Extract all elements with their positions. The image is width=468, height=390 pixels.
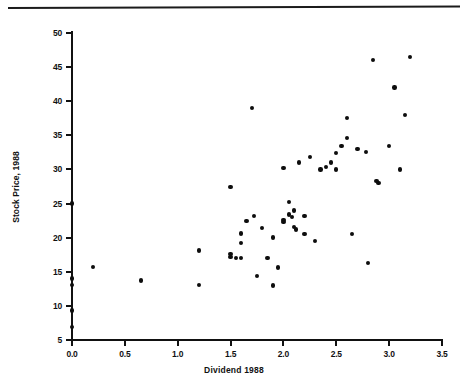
- data-point: [260, 226, 264, 230]
- x-axis-tick: [230, 340, 232, 346]
- x-axis-tick-label: 1.5: [214, 349, 248, 359]
- data-point: [292, 208, 296, 212]
- scatter-plot: 5101520253035404550 0.00.51.01.52.02.53.…: [0, 0, 468, 390]
- data-point: [376, 181, 380, 185]
- x-axis-title: Dividend 1988: [0, 365, 468, 375]
- x-axis-tick: [124, 340, 126, 346]
- data-point: [408, 55, 412, 59]
- y-axis-tick: [66, 168, 72, 170]
- data-point: [281, 220, 285, 224]
- y-axis-tick-label: 10: [36, 301, 62, 311]
- data-point: [239, 241, 243, 245]
- data-point: [318, 167, 322, 171]
- figure-container: 5101520253035404550 0.00.51.01.52.02.53.…: [0, 0, 468, 390]
- data-point: [334, 167, 338, 171]
- data-point: [70, 276, 74, 280]
- data-point: [366, 261, 370, 265]
- data-point: [350, 232, 354, 236]
- data-point: [139, 278, 143, 282]
- y-axis-tick-label: 5: [36, 335, 62, 345]
- data-point: [70, 201, 74, 205]
- data-point: [244, 219, 248, 223]
- data-point: [287, 200, 291, 204]
- data-point: [250, 106, 254, 110]
- y-axis-line: [71, 31, 73, 342]
- x-axis-tick: [335, 340, 337, 346]
- data-point: [271, 235, 275, 239]
- y-axis-tick-label: 30: [36, 164, 62, 174]
- data-point: [70, 325, 74, 329]
- y-axis-tick: [66, 305, 72, 307]
- data-point: [228, 185, 232, 189]
- data-point: [313, 239, 317, 243]
- data-point: [308, 155, 312, 159]
- data-point: [290, 215, 294, 219]
- y-axis-tick-label: 15: [36, 267, 62, 277]
- x-axis-tick: [71, 340, 73, 346]
- data-point: [329, 160, 333, 164]
- x-axis-tick: [388, 340, 390, 346]
- x-axis-tick-label: 3.0: [372, 349, 406, 359]
- y-axis-tick-label: 45: [36, 62, 62, 72]
- y-axis-tick: [66, 100, 72, 102]
- data-point: [355, 147, 359, 151]
- x-axis-tick-label: 0.5: [108, 349, 142, 359]
- data-point: [281, 166, 285, 170]
- x-axis-tick-label: 0.0: [55, 349, 89, 359]
- x-axis-tick-label: 2.5: [319, 349, 353, 359]
- y-axis-tick-label: 40: [36, 96, 62, 106]
- data-point: [91, 265, 95, 269]
- data-point: [252, 214, 256, 218]
- x-axis-tick-label: 1.0: [161, 349, 195, 359]
- data-point: [234, 256, 238, 260]
- y-axis-tick-label: 20: [36, 233, 62, 243]
- data-point: [297, 160, 301, 164]
- y-axis-title: Stock Price, 1988: [11, 127, 21, 247]
- x-axis-tick-label: 3.5: [425, 349, 459, 359]
- data-point: [339, 144, 343, 148]
- y-axis-tick: [66, 66, 72, 68]
- x-axis-tick: [282, 340, 284, 346]
- data-point: [276, 265, 280, 269]
- data-point: [403, 113, 407, 117]
- data-point: [302, 214, 306, 218]
- data-point: [271, 283, 275, 287]
- y-axis-tick: [66, 32, 72, 34]
- data-point: [294, 227, 298, 231]
- data-point: [334, 151, 338, 155]
- data-point: [345, 116, 349, 120]
- data-point: [228, 255, 232, 259]
- data-point: [197, 248, 201, 252]
- data-point: [197, 283, 201, 287]
- data-point: [364, 150, 368, 154]
- data-point: [302, 232, 306, 236]
- x-axis-tick-label: 2.0: [266, 349, 300, 359]
- x-axis-tick: [441, 340, 443, 346]
- y-axis-tick: [66, 271, 72, 273]
- data-point: [265, 256, 269, 260]
- data-point: [70, 283, 74, 287]
- y-axis-tick-label: 50: [36, 28, 62, 38]
- y-axis-tick: [66, 237, 72, 239]
- data-point: [398, 167, 402, 171]
- data-point: [345, 136, 349, 140]
- data-point: [387, 144, 391, 148]
- y-axis-tick-label: 35: [36, 130, 62, 140]
- data-point: [255, 274, 259, 278]
- y-axis-tick-label: 25: [36, 199, 62, 209]
- x-axis-tick: [177, 340, 179, 346]
- data-point: [70, 308, 74, 312]
- data-point: [239, 256, 243, 260]
- data-point: [392, 85, 396, 89]
- data-point: [239, 231, 243, 235]
- data-point: [324, 165, 328, 169]
- data-point: [371, 58, 375, 62]
- y-axis-tick: [66, 134, 72, 136]
